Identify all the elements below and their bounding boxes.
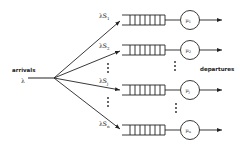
queueing-diagram: arrivals λ λS1 λS2 λSj λSn μ1μ2μjμn depa… (0, 0, 245, 146)
svg-text:λS1: λS1 (99, 12, 109, 21)
branch-label-j: λSj (99, 77, 108, 86)
queue-buffer (122, 125, 165, 135)
branch-label-2: λS2 (99, 42, 110, 51)
queue-row-2: μ2 (122, 41, 222, 60)
svg-text:λS2: λS2 (99, 42, 110, 51)
queue-row-j: μj (122, 81, 222, 100)
queue-buffer (122, 85, 165, 95)
arrivals-label: arrivals (12, 67, 36, 73)
ellipsis-dots (107, 61, 177, 113)
queue-buffer (122, 15, 165, 25)
server-circle (181, 81, 200, 100)
arrival-rate-label: λ (21, 77, 25, 84)
branch-label-1: λS1 (99, 12, 109, 21)
queue-row-n: μn (122, 121, 222, 140)
svg-text:λSj: λSj (99, 77, 108, 86)
queue-row-1: μ1 (122, 11, 222, 30)
departures-label: departures (200, 66, 235, 73)
svg-text:λSn: λSn (99, 120, 110, 129)
queue-buffer (122, 45, 165, 55)
branch-label-n: λSn (99, 120, 110, 129)
fan-lines (54, 21, 120, 129)
